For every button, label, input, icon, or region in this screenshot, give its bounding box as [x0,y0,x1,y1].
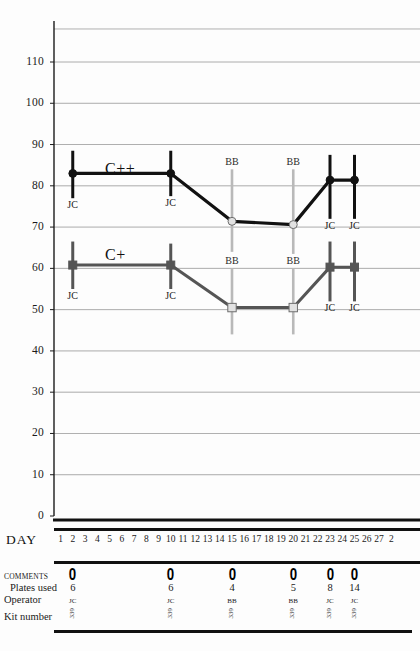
operator-value: JC [321,597,339,605]
plates-used-value: 8 [321,582,339,593]
series-label-lower: C+ [105,246,126,264]
point-operator-annotation: JC [62,290,84,301]
row-label-comments: COMMENTS [4,572,48,581]
plates-used-value: 6 [64,582,82,593]
kit-number-value: 339 [325,608,335,619]
point-operator-annotation: BB [282,255,304,266]
chart-page: 1101009080706050403020100 JCJCBBBBJCJCJC… [0,0,420,651]
y-tick-label: 70 [18,220,44,232]
point-operator-annotation: JC [344,302,366,313]
operator-value: BB [223,597,241,605]
row-label-plates-used: Plates used [10,582,57,593]
plates-used-value: 5 [284,582,302,593]
comment-marker-icon: 0 [227,566,237,583]
plot-canvas [0,0,420,651]
table-rule-bottom [54,630,412,633]
comment-marker-icon: 0 [325,566,335,583]
operator-value: JC [346,597,364,605]
point-operator-annotation: JC [62,199,84,210]
axis-lines [50,21,420,520]
y-tick-label: 0 [18,509,44,521]
operator-value: BB [284,597,302,605]
operator-value: JC [162,597,180,605]
comment-marker-icon: 0 [68,566,78,583]
kit-number-value: 339 [166,608,176,619]
series-layer [69,151,359,335]
point-operator-annotation: JC [160,197,182,208]
comment-marker-icon: 0 [349,566,359,583]
kit-number-value: 339 [227,608,237,619]
point-operator-annotation: JC [344,220,366,231]
y-tick-label: 110 [18,55,44,67]
series-label-upper: C++ [105,160,135,178]
plates-used-value: 4 [223,582,241,593]
point-operator-annotation: BB [221,255,243,266]
row-label-kit-number: Kit number [4,611,52,622]
kit-number-value: 339 [68,608,78,619]
y-tick-label: 50 [18,303,44,315]
operator-value: JC [64,597,82,605]
y-tick-label: 40 [18,344,44,356]
y-tick-label: 60 [18,261,44,273]
point-operator-annotation: BB [221,156,243,167]
y-tick-label: 100 [18,96,44,108]
y-tick-label: 90 [18,138,44,150]
kit-number-value: 339 [350,608,360,619]
y-tick-label: 20 [18,426,44,438]
plates-used-value: 6 [162,582,180,593]
y-tick-label: 10 [18,468,44,480]
table-rule-middle [54,561,420,564]
row-label-operator: Operator [4,594,41,605]
point-operator-annotation: BB [282,156,304,167]
comment-marker-icon: 0 [166,566,176,583]
plates-used-value: 14 [346,582,364,593]
y-tick-label: 30 [18,385,44,397]
point-operator-annotation: JC [319,302,341,313]
comment-marker-icon: 0 [288,566,298,583]
y-tick-label: 80 [18,179,44,191]
point-operator-annotation: JC [160,290,182,301]
point-operator-annotation: JC [319,220,341,231]
kit-number-value: 339 [288,608,298,619]
day-tick-label: 2 [384,534,398,544]
